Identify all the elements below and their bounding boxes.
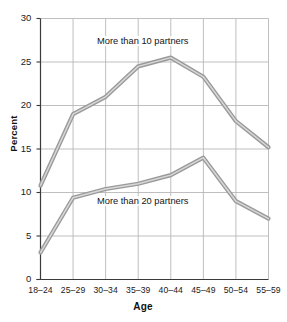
y-tick-label-0: 0: [10, 273, 32, 284]
series-annotation-more-than-10-partners: More than 10 partners: [96, 36, 189, 46]
series-line-0: [41, 58, 269, 186]
y-tick-label-30: 30: [10, 12, 32, 23]
y-tick-label-5: 5: [10, 230, 32, 241]
x-axis-title: Age: [0, 301, 286, 312]
data-series-layer: [41, 58, 269, 253]
gridlines: [41, 19, 269, 280]
line-chart-plot: [0, 0, 286, 322]
x-tick-label-7: 55–59: [249, 285, 287, 295]
y-axis-title: Percent: [8, 104, 19, 164]
y-tick-label-10: 10: [10, 186, 32, 197]
chart-figure: 051015202530 18–2425–2930–3435–3940–4445…: [0, 0, 286, 322]
series-annotation-more-than-20-partners: More than 20 partners: [96, 196, 189, 206]
y-tick-label-25: 25: [10, 56, 32, 67]
